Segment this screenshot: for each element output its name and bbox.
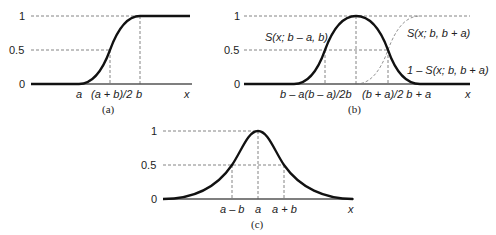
ytick-0: 0 <box>151 193 157 205</box>
ytick-1: 1 <box>234 10 240 22</box>
ytick-05: 0.5 <box>9 44 24 56</box>
s-curve <box>31 16 190 84</box>
xtick-a: a <box>255 203 261 215</box>
x-axis-label: x <box>464 88 471 100</box>
x-axis-label: x <box>183 88 190 100</box>
panel-b: 1 0.5 0 b – a(b – a)/2b (b + a)/2 b + a … <box>224 10 489 116</box>
ytick-1: 1 <box>151 125 157 137</box>
xtick-right-group: (b + a)/2 b + a <box>362 88 431 100</box>
figure-canvas: 1 0.5 0 a (a + b)/2 b x (a) 1 0.5 0 b – … <box>0 0 496 235</box>
annotation-thin: S(x; b, b + a) <box>407 27 471 39</box>
caption-a: (a) <box>102 103 115 116</box>
panel-a: 1 0.5 0 a (a + b)/2 b x (a) <box>9 10 192 116</box>
caption-b: (b) <box>348 103 361 116</box>
annotation-fall: 1 – S(x; b, b + a) <box>407 64 489 76</box>
xtick-left-group: b – a(b – a)/2b <box>280 88 352 100</box>
xtick-a-plus-b: a + b <box>272 203 297 215</box>
annotation-rise: S(x; b – a, b) <box>265 31 328 43</box>
ytick-0: 0 <box>234 78 240 90</box>
xtick-mid: (a + b)/2 <box>91 88 132 100</box>
xtick-a: a <box>76 88 82 100</box>
caption-c: (c) <box>251 218 264 231</box>
ytick-1: 1 <box>19 10 25 22</box>
panel-c: 1 0.5 0 a – b a a + b x (c) <box>141 125 354 231</box>
ytick-05: 0.5 <box>224 44 239 56</box>
ytick-0: 0 <box>19 78 25 90</box>
xtick-a-minus-b: a – b <box>220 203 244 215</box>
xtick-b: b <box>136 88 142 100</box>
x-axis-label: x <box>347 203 354 215</box>
ytick-05: 0.5 <box>141 159 156 171</box>
